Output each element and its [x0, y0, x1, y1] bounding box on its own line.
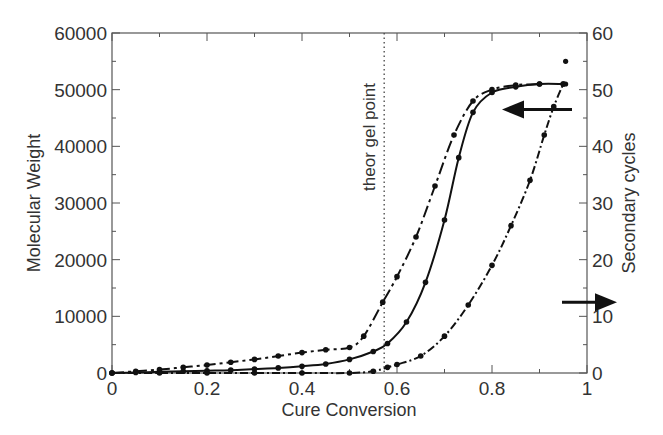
data-point — [404, 319, 410, 325]
data-point — [470, 110, 476, 116]
outlier-point — [563, 81, 568, 86]
outlier-point — [563, 59, 568, 64]
x-tick-label: 0.6 — [384, 378, 410, 399]
data-point — [456, 155, 462, 161]
chart: 00.20.40.60.8101000020000300004000050000… — [0, 0, 663, 435]
x-tick-label: 0.8 — [479, 378, 505, 399]
data-point — [513, 82, 519, 88]
y-tick-label-left: 40000 — [54, 136, 107, 157]
data-point — [418, 353, 424, 359]
data-point — [537, 81, 543, 87]
data-point — [347, 370, 353, 376]
data-point — [180, 365, 186, 371]
gel-point-label: theor gel point — [360, 83, 379, 191]
data-point — [527, 178, 533, 184]
y-tick-label-right: 0 — [592, 363, 603, 384]
x-tick-label: 0 — [107, 378, 118, 399]
data-point — [228, 359, 234, 365]
data-point — [275, 353, 281, 359]
data-point — [385, 365, 391, 371]
y-tick-label-right: 50 — [592, 80, 613, 101]
y-tick-label-left: 30000 — [54, 193, 107, 214]
data-point — [157, 370, 163, 376]
data-point — [299, 350, 305, 356]
y-tick-label-left: 20000 — [54, 250, 107, 271]
y-tick-label-left: 10000 — [54, 306, 107, 327]
marker-layer — [109, 59, 568, 376]
data-point — [361, 333, 367, 339]
y-tick-label-right: 30 — [592, 193, 613, 214]
data-point — [370, 349, 376, 355]
y-tick-label-left: 60000 — [54, 23, 107, 44]
data-point — [109, 370, 115, 376]
data-point — [489, 263, 495, 269]
x-tick-label: 0.4 — [289, 378, 316, 399]
data-point — [370, 369, 376, 375]
y-tick-label-right: 20 — [592, 250, 613, 271]
y-tick-label-right: 40 — [592, 136, 613, 157]
data-point — [394, 362, 400, 368]
data-point — [252, 370, 258, 376]
y-tick-label-left: 50000 — [54, 80, 107, 101]
data-point — [347, 357, 353, 363]
axis-ticks: 00.20.40.60.8101000020000300004000050000… — [54, 23, 613, 399]
data-point — [347, 345, 353, 351]
data-point — [133, 369, 139, 375]
x-tick-label: 1 — [582, 378, 593, 399]
data-point — [323, 361, 329, 367]
data-point — [299, 363, 305, 369]
data-point — [442, 217, 448, 223]
data-point — [432, 183, 438, 189]
data-point — [394, 274, 400, 280]
data-point — [252, 357, 258, 363]
series-line-0 — [112, 84, 563, 373]
series-layer — [112, 84, 563, 373]
y-tick-label-left: 0 — [96, 363, 107, 384]
data-point — [385, 341, 391, 347]
data-point — [204, 370, 210, 376]
data-point — [323, 347, 329, 353]
data-point — [413, 234, 419, 240]
data-point — [299, 370, 305, 376]
data-point — [451, 132, 457, 138]
x-axis-title: Cure Conversion — [281, 400, 416, 420]
x-tick-label: 0.2 — [194, 378, 220, 399]
arrow-left-icon — [502, 101, 524, 119]
data-point — [489, 87, 495, 93]
data-point — [228, 367, 234, 373]
data-point — [380, 299, 386, 305]
data-point — [465, 302, 471, 308]
series-line-1 — [112, 84, 540, 373]
y-axis-title-right: Secondary cycles — [619, 132, 639, 273]
data-point — [204, 362, 210, 368]
data-point — [541, 132, 547, 138]
data-point — [423, 280, 429, 286]
y-tick-label-right: 60 — [592, 23, 613, 44]
data-point — [470, 98, 476, 104]
data-point — [275, 365, 281, 371]
data-point — [442, 333, 448, 339]
series-line-2 — [112, 84, 563, 373]
data-point — [508, 223, 514, 229]
y-axis-title-left: Molecular Weight — [24, 134, 44, 273]
